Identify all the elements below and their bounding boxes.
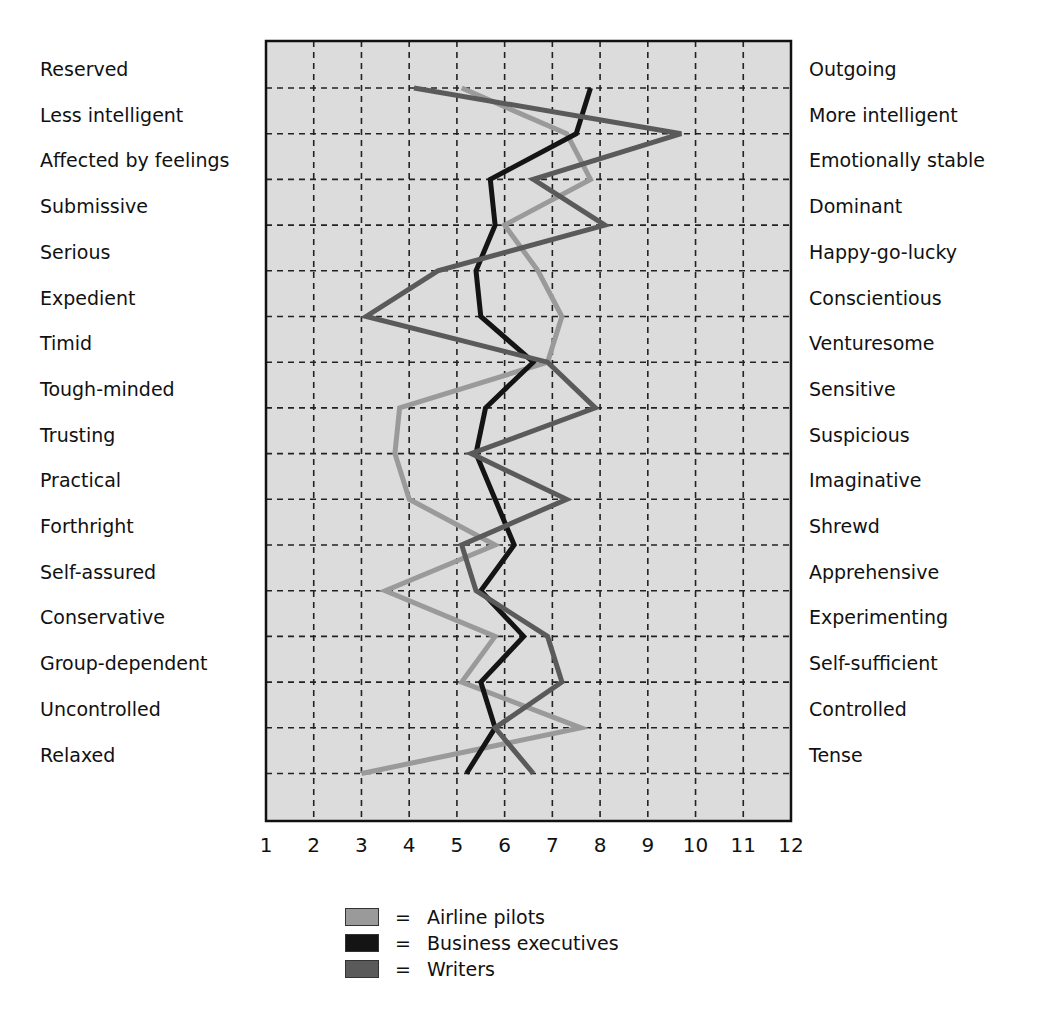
right-trait-label: Conscientious xyxy=(809,287,942,309)
x-tick-label: 10 xyxy=(683,833,708,857)
right-trait-label: Dominant xyxy=(809,195,902,217)
legend-equals: = xyxy=(379,932,427,954)
legend: = Airline pilots = Business executives =… xyxy=(345,904,619,982)
x-tick-label: 3 xyxy=(355,833,368,857)
x-tick-label: 8 xyxy=(594,833,607,857)
right-trait-label: Venturesome xyxy=(809,332,935,354)
left-trait-label: Self-assured xyxy=(40,561,156,583)
left-trait-label: Affected by feelings xyxy=(40,149,229,171)
left-trait-label: Submissive xyxy=(40,195,148,217)
right-trait-label: Experimenting xyxy=(809,606,948,628)
x-tick-label: 2 xyxy=(307,833,320,857)
left-trait-label: Expedient xyxy=(40,287,136,309)
legend-item-writers: = Writers xyxy=(345,956,619,982)
left-trait-label: Uncontrolled xyxy=(40,698,161,720)
right-trait-label: Apprehensive xyxy=(809,561,939,583)
legend-equals: = xyxy=(379,958,427,980)
left-trait-label: Serious xyxy=(40,241,110,263)
left-trait-label: Group-dependent xyxy=(40,652,207,674)
legend-item-airline-pilots: = Airline pilots xyxy=(345,904,619,930)
legend-swatch-writers xyxy=(345,960,379,978)
legend-equals: = xyxy=(379,906,427,928)
left-trait-label: Conservative xyxy=(40,606,165,628)
right-trait-label: Outgoing xyxy=(809,58,897,80)
right-trait-label: Tense xyxy=(809,744,863,766)
legend-item-business-executives: = Business executives xyxy=(345,930,619,956)
right-trait-label: Happy-go-lucky xyxy=(809,241,957,263)
x-tick-label: 6 xyxy=(498,833,511,857)
legend-label: Airline pilots xyxy=(427,906,545,928)
left-trait-label: Relaxed xyxy=(40,744,115,766)
x-tick-label: 7 xyxy=(546,833,559,857)
right-trait-label: Controlled xyxy=(809,698,907,720)
left-trait-label: Tough-minded xyxy=(40,378,175,400)
x-tick-label: 1 xyxy=(260,833,273,857)
left-trait-label: Practical xyxy=(40,469,121,491)
left-trait-label: Less intelligent xyxy=(40,104,183,126)
x-tick-label: 5 xyxy=(451,833,464,857)
legend-swatch-business-executives xyxy=(345,934,379,952)
right-trait-label: Self-sufficient xyxy=(809,652,938,674)
right-trait-label: Suspicious xyxy=(809,424,910,446)
x-tick-label: 9 xyxy=(641,833,654,857)
left-trait-label: Reserved xyxy=(40,58,128,80)
right-trait-label: Imaginative xyxy=(809,469,921,491)
legend-label: Business executives xyxy=(427,932,619,954)
x-tick-label: 4 xyxy=(403,833,416,857)
right-trait-label: More intelligent xyxy=(809,104,958,126)
left-trait-label: Forthright xyxy=(40,515,134,537)
right-trait-label: Shrewd xyxy=(809,515,880,537)
legend-label: Writers xyxy=(427,958,495,980)
right-trait-label: Sensitive xyxy=(809,378,896,400)
legend-swatch-airline-pilots xyxy=(345,908,379,926)
x-tick-label: 11 xyxy=(731,833,756,857)
left-trait-label: Timid xyxy=(40,332,92,354)
left-trait-label: Trusting xyxy=(40,424,115,446)
x-tick-label: 12 xyxy=(778,833,803,857)
right-trait-label: Emotionally stable xyxy=(809,149,985,171)
